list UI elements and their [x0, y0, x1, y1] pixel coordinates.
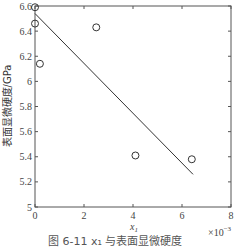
- y-tick-label: 5.2: [20, 176, 33, 187]
- x-axis-multiplier: ×10−3: [208, 225, 232, 238]
- y-tick-label: 5.8: [20, 101, 33, 112]
- x-tick-label: 0: [33, 210, 38, 221]
- y-axis-label: 表面显微硬度/GPa: [1, 65, 13, 148]
- x-tick-label: 6: [180, 210, 185, 221]
- data-point: [93, 24, 100, 31]
- plot-area: [35, 6, 231, 207]
- y-tick-label: 5.6: [20, 126, 33, 137]
- data-point: [36, 60, 43, 67]
- y-tick-label: 6.4: [20, 26, 33, 37]
- y-tick-label: 5.4: [20, 151, 33, 162]
- x-tick-label: 8: [229, 210, 234, 221]
- y-tick-label: 5: [27, 202, 32, 213]
- y-axis-ticks: 55.25.45.65.866.26.46.6: [20, 1, 232, 213]
- figure-caption: 图 6-11 x₁ 与表面显微硬度: [48, 232, 182, 248]
- fit-line: [35, 14, 193, 175]
- y-tick-label: 6.6: [20, 1, 33, 12]
- data-point: [132, 152, 139, 159]
- data-points: [32, 4, 196, 163]
- y-tick-label: 6: [27, 76, 32, 87]
- x-tick-label: 2: [82, 210, 87, 221]
- data-point: [188, 156, 195, 163]
- x-tick-label: 4: [131, 210, 136, 221]
- y-tick-label: 6.2: [20, 51, 33, 62]
